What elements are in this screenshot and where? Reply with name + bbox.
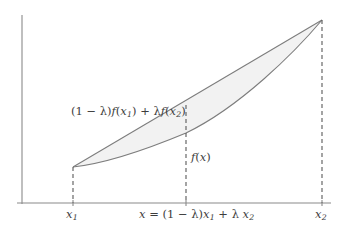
chord-secant-line (73, 20, 322, 167)
x1-tick-label: x1 (66, 209, 78, 222)
x2-tick-label: x2 (315, 209, 327, 222)
function-value-label: f(x) (191, 152, 211, 164)
chord-label-part-6: ) + λ (132, 104, 161, 118)
chord-value-label: (1 − λ)f(x1) + λf(x2) (71, 106, 186, 119)
convexity-figure: (1 − λ)f(x1) + λf(x2) f(x) x1 x = (1 − λ… (0, 0, 346, 234)
fx-label-part-4: ) (206, 150, 211, 164)
x-mid-tick-label: x = (1 − λ)x1 + λ x2 (139, 209, 254, 222)
xmid-label-part-3: x (203, 207, 210, 221)
x2-label-part-2: 2 (322, 213, 327, 222)
xmid-label-part-5: + λ (215, 207, 243, 221)
x1-label-part-2: 1 (73, 213, 78, 222)
xmid-label-part-7: 2 (249, 213, 254, 222)
xmid-label-part-2: = (1 − λ) (146, 207, 203, 221)
chord-label-part-4: x (120, 104, 127, 118)
x2-label-part-1: x (315, 207, 322, 221)
x1-label-part-1: x (66, 207, 73, 221)
chord-label-part-1: (1 − λ) (71, 104, 112, 118)
chord-label-part-11: ) (181, 104, 186, 118)
